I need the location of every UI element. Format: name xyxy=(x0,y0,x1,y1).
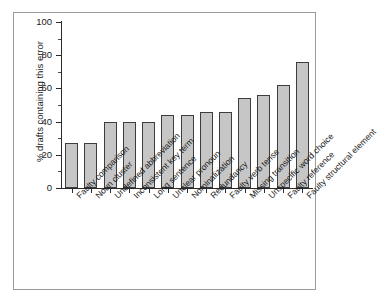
y-tick-label-80: 80 xyxy=(12,50,52,60)
y-minor-tick-90 xyxy=(58,39,61,40)
x-tick xyxy=(149,189,150,193)
y-minor-tick-70 xyxy=(58,72,61,73)
y-tick-label-60: 60 xyxy=(12,83,52,93)
bar xyxy=(65,143,78,188)
y-minor-tick-50 xyxy=(58,105,61,106)
y-axis-line xyxy=(61,21,62,189)
y-minor-tick-10 xyxy=(58,171,61,172)
y-tick-100 xyxy=(56,22,61,23)
y-tick-label-0: 0 xyxy=(12,183,52,193)
y-tick-40 xyxy=(56,122,61,123)
y-tick-label-20: 20 xyxy=(12,150,52,160)
y-tick-0 xyxy=(56,188,61,189)
x-tick xyxy=(72,189,73,193)
y-minor-tick-30 xyxy=(58,138,61,139)
y-tick-label-40: 40 xyxy=(12,117,52,127)
y-tick-20 xyxy=(56,155,61,156)
x-tick xyxy=(245,189,246,193)
y-tick-80 xyxy=(56,55,61,56)
y-tick-60 xyxy=(56,88,61,89)
y-tick-label-100: 100 xyxy=(12,17,52,27)
